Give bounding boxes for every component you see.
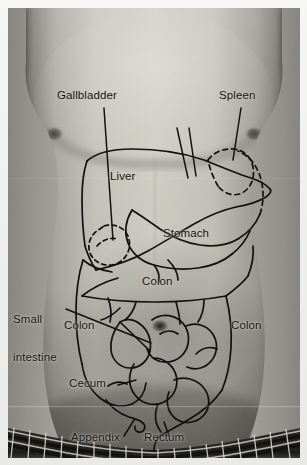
film-grain bbox=[8, 8, 300, 458]
anatomy-figure: Gallbladder Spleen Liver Stomach Colon S… bbox=[0, 0, 307, 465]
torso-photograph bbox=[8, 8, 300, 458]
